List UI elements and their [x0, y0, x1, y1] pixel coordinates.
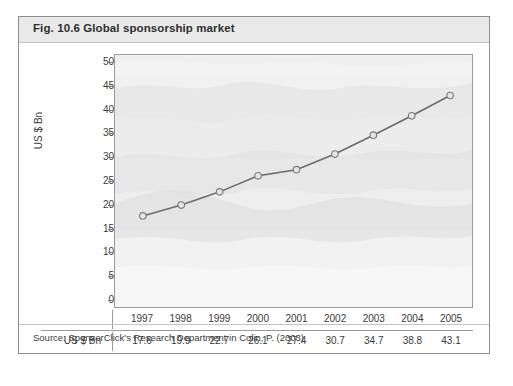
data-table: 199719981999200020012002200320042005 US …	[41, 309, 473, 351]
table-cell-year: 2002	[316, 313, 354, 324]
data-point-marker	[178, 202, 185, 209]
figure-title-band: Fig. 10.6 Global sponsorship market	[19, 17, 489, 43]
data-point-marker	[216, 189, 223, 196]
y-tick-mark	[108, 229, 113, 230]
table-cell-year: 2004	[393, 313, 431, 324]
data-point-marker	[255, 173, 262, 180]
y-tick-mark	[108, 110, 113, 111]
figure-container: Fig. 10.6 Global sponsorship market 5045…	[18, 16, 490, 354]
data-point-marker	[293, 166, 300, 173]
y-tick-mark	[108, 300, 113, 301]
y-tick-mark	[108, 133, 113, 134]
table-cell-value: 34.7	[355, 335, 393, 346]
table-cell-value: 38.8	[393, 335, 431, 346]
y-tick-mark	[108, 276, 113, 277]
table-row-years: 199719981999200020012002200320042005	[41, 309, 473, 330]
y-tick-mark	[108, 252, 113, 253]
table-cell-year: 2001	[278, 313, 316, 324]
data-point-marker	[447, 92, 454, 99]
series-polyline	[143, 96, 450, 216]
y-tick-mark	[108, 205, 113, 206]
table-cell-year: 1998	[162, 313, 200, 324]
table-divider	[112, 310, 113, 329]
table-cell-year: 1999	[200, 313, 238, 324]
plot-area	[114, 54, 473, 308]
data-point-marker	[140, 213, 147, 220]
y-axis-title: US $ Bn	[33, 91, 44, 171]
line-series	[115, 55, 472, 307]
table-cell-value: 43.1	[432, 335, 470, 346]
source-divider	[19, 324, 489, 325]
y-tick-mark	[108, 86, 113, 87]
table-cell-year: 2000	[239, 313, 277, 324]
y-tick-mark	[108, 181, 113, 182]
table-cell-year: 2003	[355, 313, 393, 324]
data-point-marker	[408, 113, 415, 120]
y-tick-mark	[108, 62, 113, 63]
y-tick-mark	[108, 157, 113, 158]
series-markers	[140, 92, 454, 219]
data-point-marker	[332, 151, 339, 158]
source-note: Source: SponsorClick's Research Departme…	[33, 332, 304, 343]
table-cell-value: 30.7	[316, 335, 354, 346]
page-title: Fig. 10.6 Global sponsorship market	[33, 22, 235, 34]
data-point-marker	[370, 132, 377, 139]
table-cell-year: 2005	[432, 313, 470, 324]
y-axis-ticks: 50454035302520151050	[74, 54, 114, 308]
table-cell-year: 1997	[123, 313, 161, 324]
